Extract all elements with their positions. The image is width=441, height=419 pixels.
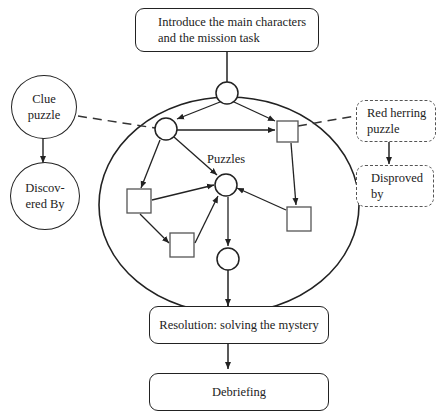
resolution-box: Resolution: solving the mystery <box>149 306 329 344</box>
discovered-line-2: ered By <box>25 196 65 212</box>
node-d <box>170 233 194 257</box>
red-herring-node: Red herring puzzle <box>356 100 436 142</box>
clue-line-1: Clue <box>28 91 61 107</box>
discovered-line-1: Discov- <box>25 180 65 196</box>
red-herring-line-1: Red herring <box>367 105 426 121</box>
disproved-line-1: Disproved <box>371 170 423 186</box>
red-herring-line-2: puzzle <box>367 121 426 137</box>
node-e <box>287 207 311 231</box>
intro-line-1: Introduce the main characters <box>158 14 306 30</box>
disproved-by-node: Disproved by <box>356 165 434 207</box>
clue-puzzle-node: Clue puzzle <box>11 75 77 139</box>
node-a <box>155 118 177 140</box>
clue-line-2: puzzle <box>28 107 61 123</box>
node-end <box>217 248 239 270</box>
node-c <box>127 189 151 213</box>
disproved-line-2: by <box>371 186 423 202</box>
discovered-by-node: Discov- ered By <box>10 162 80 230</box>
intro-line-2: and the mission task <box>158 30 306 46</box>
resolution-label: Resolution: solving the mystery <box>159 317 318 333</box>
debriefing-box: Debriefing <box>149 373 329 411</box>
puzzles-label: Puzzles <box>207 152 245 167</box>
intro-box: Introduce the main characters and the mi… <box>135 8 319 52</box>
node-b <box>277 121 298 142</box>
node-start <box>216 82 238 104</box>
node-center <box>215 174 237 196</box>
debriefing-label: Debriefing <box>212 384 266 400</box>
